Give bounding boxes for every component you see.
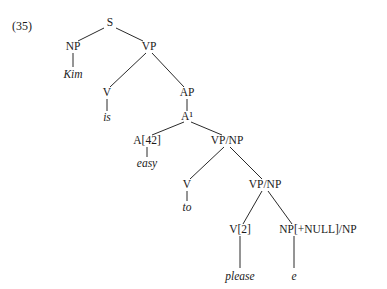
tree-node-s: S bbox=[107, 17, 113, 29]
terminal-word-e: e bbox=[291, 271, 296, 283]
tree-edge bbox=[116, 28, 143, 41]
terminal-word-please: please bbox=[225, 271, 254, 283]
tree-edge bbox=[110, 53, 146, 87]
tree-node-ap: AP bbox=[180, 87, 195, 99]
tree-node-abar: A¹ bbox=[181, 111, 193, 123]
tree-node-a42: A[42] bbox=[133, 135, 160, 147]
terminal-word-is: is bbox=[103, 112, 111, 124]
tree-edge bbox=[268, 191, 292, 224]
terminal-word-to: to bbox=[183, 202, 192, 214]
tree-edge bbox=[152, 122, 184, 135]
tree-node-npnull: NP[+NULL]/NP bbox=[279, 224, 356, 236]
tree-node-v2: V bbox=[183, 179, 191, 191]
tree-node-vp: VP bbox=[142, 41, 157, 53]
tree-node-vpnp2: VP/NP bbox=[249, 179, 282, 191]
tree-edge bbox=[230, 147, 262, 179]
tree-edge bbox=[190, 147, 224, 179]
terminal-word-easy: easy bbox=[137, 158, 157, 170]
tree-edges bbox=[0, 0, 387, 289]
tree-edge bbox=[243, 191, 262, 224]
terminal-word-kim: Kim bbox=[63, 69, 82, 81]
tree-node-v_2: V[2] bbox=[229, 224, 251, 236]
tree-node-np: NP bbox=[66, 41, 81, 53]
tree-node-v1: V bbox=[103, 87, 111, 99]
tree-edge bbox=[78, 28, 104, 41]
tree-edge bbox=[191, 122, 222, 135]
tree-edge bbox=[152, 53, 184, 87]
tree-node-vpnp1: VP/NP bbox=[211, 135, 244, 147]
